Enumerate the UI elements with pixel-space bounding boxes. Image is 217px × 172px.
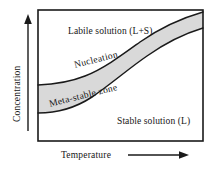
x-axis-label: Temperature [61,150,111,160]
region-label-labile: Labile solution (L+S) [68,26,153,36]
region-label-stable: Stable solution (L) [117,116,190,126]
y-axis-arrow-icon [24,14,32,131]
y-axis-label: Concentration [12,66,22,122]
x-axis-arrow-icon [128,151,189,159]
solubility-phase-diagram: Labile solution (L+S) Nucleation Meta-st… [0,0,217,172]
